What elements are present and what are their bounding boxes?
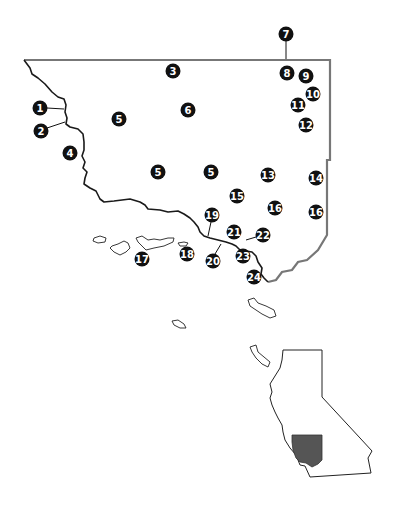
site-marker-15[interactable]: 15	[230, 189, 245, 204]
marker-label: 1	[37, 103, 44, 114]
marker-label: 15	[230, 191, 244, 202]
marker-label: 16	[268, 203, 282, 214]
marker-label: 16	[309, 207, 323, 218]
leader-line-2	[47, 122, 65, 128]
site-marker-5[interactable]: 5	[112, 112, 127, 127]
site-marker-3[interactable]: 3	[166, 64, 181, 79]
site-marker-1[interactable]: 1	[33, 101, 48, 116]
marker-label: 7	[283, 29, 290, 40]
site-marker-13[interactable]: 13	[261, 168, 276, 183]
site-marker-22[interactable]: 22	[256, 228, 271, 243]
site-marker-2[interactable]: 2	[34, 124, 49, 139]
leader-line-22	[246, 237, 256, 240]
island-5	[248, 298, 276, 318]
highlighted-region	[292, 435, 322, 467]
site-marker-12[interactable]: 12	[299, 118, 314, 133]
marker-label: 8	[284, 68, 291, 79]
site-marker-8[interactable]: 8	[280, 66, 295, 81]
site-marker-5[interactable]: 5	[151, 165, 166, 180]
island-6	[172, 320, 186, 328]
site-marker-7[interactable]: 7	[279, 27, 294, 42]
marker-label: 5	[116, 114, 123, 125]
site-marker-16[interactable]: 16	[268, 201, 283, 216]
site-marker-21[interactable]: 21	[227, 225, 242, 240]
marker-layer: 1234565578910111213141516161718192021222…	[33, 27, 324, 285]
marker-label: 6	[185, 105, 192, 116]
site-marker-16[interactable]: 16	[309, 205, 324, 220]
leader-line-20	[215, 244, 221, 254]
land-boundary	[24, 60, 330, 282]
site-marker-11[interactable]: 11	[291, 98, 306, 113]
marker-label: 23	[236, 251, 250, 262]
regional-map: 1234565578910111213141516161718192021222…	[0, 0, 405, 506]
site-marker-18[interactable]: 18	[180, 247, 195, 262]
marker-label: 13	[261, 170, 275, 181]
site-marker-19[interactable]: 19	[205, 208, 220, 223]
island-3	[136, 236, 174, 250]
marker-label: 2	[38, 126, 45, 137]
marker-label: 10	[306, 89, 320, 100]
leader-line-1	[47, 108, 64, 109]
marker-label: 12	[299, 120, 313, 131]
site-marker-4[interactable]: 4	[63, 146, 78, 161]
site-marker-6[interactable]: 6	[181, 103, 196, 118]
site-marker-14[interactable]: 14	[309, 171, 324, 186]
marker-label: 19	[205, 210, 219, 221]
site-marker-5[interactable]: 5	[204, 165, 219, 180]
marker-label: 24	[247, 272, 261, 283]
site-marker-17[interactable]: 17	[135, 252, 150, 267]
marker-label: 3	[170, 66, 177, 77]
site-marker-23[interactable]: 23	[236, 249, 251, 264]
marker-label: 14	[309, 173, 323, 184]
marker-label: 4	[67, 148, 74, 159]
marker-label: 20	[206, 256, 220, 267]
marker-label: 21	[227, 227, 241, 238]
island-2	[110, 241, 130, 255]
marker-label: 5	[208, 167, 215, 178]
site-marker-10[interactable]: 10	[306, 87, 321, 102]
site-marker-20[interactable]: 20	[206, 254, 221, 269]
island-7	[250, 345, 270, 367]
california-inset	[270, 350, 372, 477]
marker-label: 5	[155, 167, 162, 178]
island-1	[93, 236, 106, 243]
site-marker-9[interactable]: 9	[299, 69, 314, 84]
leader-line-19	[208, 222, 211, 236]
marker-label: 9	[303, 71, 310, 82]
marker-label: 22	[256, 230, 270, 241]
site-marker-24[interactable]: 24	[247, 270, 262, 285]
marker-label: 17	[135, 254, 149, 265]
island-4	[178, 242, 188, 246]
marker-label: 11	[291, 100, 305, 111]
marker-label: 18	[180, 249, 194, 260]
